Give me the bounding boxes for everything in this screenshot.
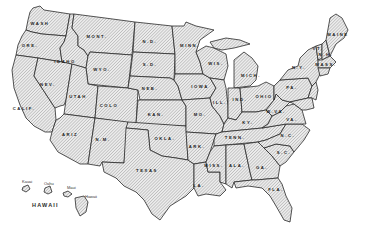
state-label-wv: W.VA. bbox=[266, 109, 286, 114]
island-kauai[interactable] bbox=[22, 185, 30, 192]
state-label-mi: MICH. bbox=[241, 73, 261, 78]
state-label-ny: N.Y. bbox=[292, 65, 306, 70]
state-label-sc: S.C. bbox=[277, 150, 292, 155]
state-label-la: LA. bbox=[193, 183, 205, 188]
hawaii-islands bbox=[22, 185, 88, 216]
state-label-mt: MONT. bbox=[86, 34, 107, 39]
states-layer bbox=[12, 6, 348, 222]
island-label-kauai: Kauai bbox=[22, 179, 32, 184]
state-label-ks: KAN. bbox=[148, 112, 165, 117]
state-label-fl: FLA. bbox=[268, 187, 284, 192]
state-label-wi: WIS. bbox=[208, 61, 223, 66]
state-label-co: COLO bbox=[100, 103, 119, 108]
state-label-vt: VT. bbox=[313, 46, 324, 51]
us-outline-map: WASHORE.CALIF.IDAHONEV.MONT.WYO.UTAHCOLO… bbox=[0, 0, 365, 243]
state-label-ky: KY. bbox=[242, 120, 253, 125]
state-label-il: ILL. bbox=[213, 100, 227, 105]
state-label-nc: N.C. bbox=[281, 133, 296, 138]
state-label-in: IND. bbox=[233, 97, 248, 102]
state-label-ia: IOWA bbox=[191, 84, 209, 89]
state-label-oh: OHIO bbox=[255, 94, 272, 99]
state-label-mo: MO. bbox=[194, 112, 207, 117]
hawaii-title: HAWAII bbox=[32, 202, 59, 208]
island-oahu[interactable] bbox=[44, 186, 52, 194]
island-maui[interactable] bbox=[63, 191, 72, 197]
state-label-nv: NEV. bbox=[40, 82, 56, 87]
state-label-or: ORE. bbox=[22, 43, 39, 48]
state-label-id: IDAHO bbox=[54, 59, 76, 64]
state-label-ga: GA. bbox=[256, 165, 268, 170]
state-label-tn: TENN. bbox=[225, 135, 246, 140]
state-az[interactable] bbox=[50, 114, 95, 164]
state-label-me: MAINE bbox=[327, 32, 349, 37]
state-label-mn: MINN. bbox=[180, 43, 200, 48]
state-fl[interactable] bbox=[234, 178, 292, 222]
state-label-ar: ARK. bbox=[189, 144, 206, 149]
state-nm[interactable] bbox=[88, 118, 128, 166]
island-label-hawaii: Hawaii bbox=[85, 194, 97, 199]
state-label-ok: OKLA. bbox=[154, 136, 175, 141]
state-label-al: ALA. bbox=[229, 163, 245, 168]
state-label-sd: S.D. bbox=[143, 62, 158, 67]
state-label-va: VA. bbox=[286, 117, 297, 122]
state-ct-ri[interactable] bbox=[318, 68, 330, 76]
state-label-pa: PA. bbox=[286, 85, 297, 90]
state-label-nd: N.D. bbox=[143, 39, 158, 44]
state-label-wa: WASH bbox=[31, 21, 50, 26]
island-hawaii[interactable] bbox=[75, 196, 88, 216]
state-label-ca: CALIF. bbox=[13, 106, 36, 111]
state-nd[interactable] bbox=[133, 22, 175, 54]
state-label-tx: TEXAS bbox=[136, 168, 158, 173]
island-label-oahu: Oahu bbox=[44, 181, 54, 186]
state-label-ut: UTAH bbox=[69, 94, 87, 99]
state-label-ms: MISS. bbox=[204, 163, 223, 168]
state-label-wy: WYO. bbox=[93, 67, 111, 72]
state-label-ma: MASS. bbox=[315, 62, 336, 67]
state-label-nh: N.H. bbox=[319, 52, 334, 57]
state-label-ne: NEB. bbox=[142, 86, 158, 91]
state-label-az: ARIZ bbox=[62, 132, 78, 137]
island-label-maui: Maui bbox=[67, 185, 76, 190]
state-label-nm: N.M. bbox=[95, 137, 110, 142]
